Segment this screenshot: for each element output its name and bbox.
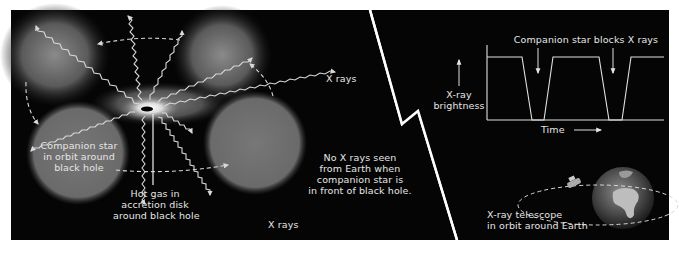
companion-star-label: Companion star in orbit around black hol… (38, 140, 120, 173)
hot-gas-label-line: Hot gas in (113, 188, 197, 199)
hot-gas-label-line: accretion disk (113, 199, 197, 210)
no-xrays-label: No X rays seen from Earth when companion… (308, 152, 412, 196)
companion-star-label-line: in orbit around (38, 151, 120, 162)
no-xrays-label-line: companion star is (308, 174, 412, 185)
y-axis-label: X-ray brightness (433, 89, 485, 111)
hot-gas-label-line: around black hole (113, 210, 197, 221)
y-axis-label-line: brightness (433, 100, 485, 111)
hot-gas-label: Hot gas in accretion disk around black h… (113, 188, 197, 221)
xray-binary-diagram: Companion star in orbit around black hol… (0, 0, 679, 254)
no-xrays-label-line: from Earth when (308, 163, 412, 174)
no-xrays-label-line: No X rays seen (308, 152, 412, 163)
telescope-label-line: X-ray telescope (487, 209, 588, 220)
companion-star-front (203, 91, 307, 195)
no-xrays-label-line: in front of black hole. (308, 185, 412, 196)
xrays-lower-label: X rays (268, 219, 298, 230)
x-axis-label: Time (541, 124, 565, 135)
black-hole-icon (141, 107, 153, 112)
companion-star-label-line: black hole (38, 162, 120, 173)
telescope-label-line: in orbit around Earth (487, 220, 588, 231)
telescope-label: X-ray telescope in orbit around Earth (487, 209, 588, 231)
companion-star-label-line: Companion star (38, 140, 120, 151)
y-axis-label-line: X-ray (433, 89, 485, 100)
companion-star-top-left (0, 3, 110, 107)
chart-title-label: Companion star blocks X rays (506, 34, 666, 45)
xrays-upper-label: X rays (326, 73, 356, 84)
